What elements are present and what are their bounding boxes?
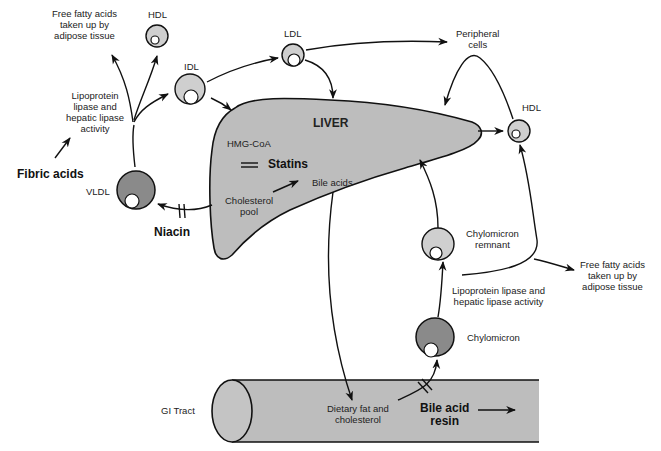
bile-acids-label: Bile acids bbox=[312, 177, 353, 188]
hdl-top-label: HDL bbox=[148, 9, 167, 20]
ffa-right-label: Free fatty acids taken up by adipose tis… bbox=[580, 259, 645, 292]
statins-label: Statins bbox=[268, 158, 308, 171]
fibric-acids-label: Fibric acids bbox=[17, 168, 84, 181]
vldl-particle bbox=[117, 171, 155, 209]
cholesterol-pool-label: Cholesterol pool bbox=[225, 195, 273, 217]
hmg-coa-label: HMG-CoA bbox=[227, 138, 271, 149]
dietary-fat-label: Dietary fat and cholesterol bbox=[327, 403, 389, 425]
lpl-right-label: Lipoprotein lipase and hepatic lipase ac… bbox=[452, 285, 545, 307]
ldl-particle bbox=[282, 44, 304, 66]
hdl-right-label: HDL bbox=[522, 102, 541, 113]
idl-particle bbox=[175, 74, 205, 104]
lipid-metabolism-diagram: Free fatty acids taken up by adipose tis… bbox=[0, 0, 661, 451]
chylomicron-particle bbox=[416, 318, 454, 357]
diagram-canvas bbox=[0, 0, 661, 451]
chylomicron-label: Chylomicron bbox=[467, 332, 520, 343]
peripheral-cells-label: Peripheral cells bbox=[456, 28, 499, 50]
hdl-top-particle bbox=[146, 25, 168, 47]
ffa-left-label: Free fatty acids taken up by adipose tis… bbox=[52, 8, 117, 41]
lpl-left-label: Lipoprotein lipase and hepatic lipase ac… bbox=[66, 90, 124, 134]
liver-label: LIVER bbox=[313, 118, 348, 129]
bile-acid-resin-label: Bile acid resin bbox=[420, 402, 469, 428]
chylomicron-remnant-particle bbox=[422, 228, 454, 260]
gi-tract-label: GI Tract bbox=[161, 405, 195, 416]
ldl-label: LDL bbox=[284, 28, 301, 39]
chylomicron-remnant-label: Chylomicron remnant bbox=[466, 228, 519, 250]
pathway-arrows bbox=[55, 41, 574, 410]
niacin-label: Niacin bbox=[154, 226, 190, 239]
vldl-label: VLDL bbox=[86, 186, 110, 197]
hdl-right-particle bbox=[508, 120, 530, 142]
idl-label: IDL bbox=[184, 61, 199, 72]
